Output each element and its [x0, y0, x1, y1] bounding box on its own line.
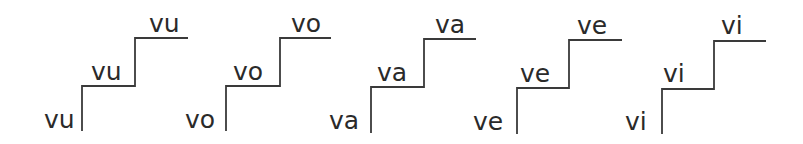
level-label-high: va: [435, 10, 465, 39]
level-label-high: vu: [149, 9, 180, 38]
level-label-high: vo: [291, 9, 321, 38]
staircase-group-va: va va va: [329, 10, 476, 135]
level-label-mid: ve: [520, 59, 550, 88]
staircase-group-vu: vu vu vu: [44, 9, 188, 134]
staircase-diagram: vu vu vu vo vo vo va va va ve ve ve vi v…: [0, 0, 803, 144]
level-label-low: va: [329, 106, 359, 135]
level-label-mid: va: [377, 58, 407, 87]
staircase-group-vo: vo vo vo: [185, 9, 331, 134]
staircase-group-ve: ve ve ve: [473, 11, 622, 136]
level-label-high: ve: [577, 11, 607, 40]
level-label-low: vo: [185, 105, 215, 134]
level-label-mid: vo: [233, 57, 263, 86]
level-label-high: vi: [721, 11, 743, 40]
level-label-mid: vu: [91, 57, 122, 86]
level-label-mid: vi: [663, 59, 685, 88]
level-label-low: vu: [44, 105, 75, 134]
level-label-low: vi: [625, 107, 647, 136]
staircase-group-vi: vi vi vi: [625, 11, 766, 136]
level-label-low: ve: [473, 107, 503, 136]
